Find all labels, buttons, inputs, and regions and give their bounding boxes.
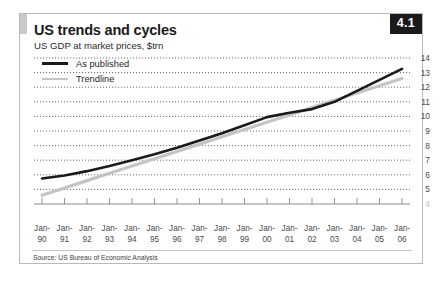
x-axis-tick-label: Jan-01 — [282, 224, 298, 245]
x-axis-tick-label: Jan-00 — [259, 224, 275, 245]
y-axis-tick-label: 7 — [425, 156, 430, 164]
x-axis-tick-label: Jan-97 — [192, 224, 208, 245]
x-axis-tick-label: Jan-02 — [304, 224, 320, 245]
x-axis-tick-label: Jan-90 — [34, 224, 50, 245]
x-axis-labels: Jan-90Jan-91Jan-92Jan-93Jan-94Jan-95Jan-… — [34, 224, 410, 252]
figure-page: 4.1 US trends and cycles US GDP at marke… — [0, 0, 442, 285]
x-axis-tick-label: Jan-05 — [372, 224, 388, 245]
x-axis-tick-label: Jan-95 — [147, 224, 163, 245]
x-axis-tick-label: Jan-93 — [102, 224, 118, 245]
y-axis-tick-label: 12 — [421, 83, 430, 91]
y-axis-labels: 1413121110987654 — [412, 52, 434, 220]
y-axis-baseline-label: 4 — [425, 200, 430, 208]
series-as-published-line — [42, 69, 402, 179]
x-axis-tick-label: Jan-03 — [327, 224, 343, 245]
y-axis-tick-label: 10 — [421, 112, 430, 120]
figure-card: 4.1 US trends and cycles US GDP at marke… — [19, 13, 423, 264]
figure-title: US trends and cycles — [34, 22, 177, 38]
y-axis-tick-label: 11 — [421, 98, 430, 106]
x-axis-ticks — [42, 198, 402, 204]
figure-subtitle: US GDP at market prices, $trn — [34, 40, 163, 51]
footer-divider — [32, 250, 412, 251]
y-axis-tick-label: 5 — [425, 185, 430, 193]
y-axis-tick-label: 13 — [421, 68, 430, 76]
y-axis-tick-label: 8 — [425, 141, 430, 149]
x-axis-tick-label: Jan-91 — [57, 224, 73, 245]
source-note: Source: US Bureau of Economic Analysis — [33, 254, 158, 261]
chart-svg — [34, 52, 410, 220]
x-axis-tick-label: Jan-04 — [349, 224, 365, 245]
x-axis-tick-label: Jan-96 — [169, 224, 185, 245]
x-axis-tick-label: Jan-06 — [394, 224, 410, 245]
plot-area — [34, 52, 410, 220]
x-axis-tick-label: Jan-94 — [124, 224, 140, 245]
accent-bar — [20, 14, 27, 34]
y-axis-tick-label: 14 — [421, 54, 430, 62]
x-axis-tick-label: Jan-92 — [79, 224, 95, 245]
x-axis-tick-label: Jan-98 — [214, 224, 230, 245]
x-axis-tick-label: Jan-99 — [237, 224, 253, 245]
y-axis-tick-label: 6 — [425, 171, 430, 179]
y-axis-tick-label: 9 — [425, 127, 430, 135]
figure-number-badge: 4.1 — [390, 14, 422, 34]
